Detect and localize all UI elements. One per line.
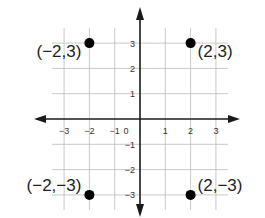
y-tick-label: 3: [130, 39, 135, 49]
x-tick-label: −1: [110, 126, 120, 136]
coordinate-plane: −3−2−1123321−1−2−3 0 (−2,3)(2,3)(−2,−3)(…: [0, 0, 265, 218]
point-label: (2,−3): [198, 176, 243, 195]
y-tick-label: 2: [130, 64, 135, 74]
x-tick-label: −3: [59, 126, 69, 136]
point-label: (−2,3): [37, 42, 82, 61]
y-tick-label: 1: [130, 89, 135, 99]
x-tick-label: 1: [163, 126, 168, 136]
point-marker: [84, 190, 94, 200]
x-tick-label: 3: [213, 126, 218, 136]
point-label: (2,3): [198, 42, 233, 61]
x-axis-left-arrow-icon: [34, 115, 46, 123]
point-label: (−2,−3): [27, 176, 82, 195]
origin-label: 0: [123, 126, 128, 136]
point-marker: [84, 38, 94, 48]
x-axis-right-arrow-icon: [228, 115, 240, 123]
y-tick-label: −1: [125, 140, 135, 150]
y-tick-label: −2: [125, 165, 135, 175]
x-tick-label: −2: [84, 126, 94, 136]
y-tick-label: −3: [125, 190, 135, 200]
x-tick-label: 2: [188, 126, 193, 136]
y-axis-down-arrow-icon: [136, 204, 144, 217]
y-axis-up-arrow-icon: [136, 7, 144, 20]
point-marker: [186, 190, 196, 200]
point-marker: [186, 38, 196, 48]
